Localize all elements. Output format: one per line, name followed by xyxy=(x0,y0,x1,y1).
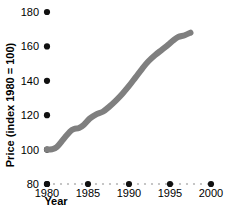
x-axis-grid-dot xyxy=(116,183,118,185)
x-axis-tick-label: 1985 xyxy=(76,187,100,199)
y-axis-tick-dot xyxy=(44,78,50,84)
x-axis-grid-dot xyxy=(74,183,76,185)
y-axis-tick-label: 160 xyxy=(21,40,39,52)
x-axis-grid-dot xyxy=(53,183,55,185)
x-axis-grid-dot xyxy=(165,183,167,185)
x-axis-tick-label: 1995 xyxy=(158,187,182,199)
y-axis-tick-dot xyxy=(44,9,50,15)
data-series-price-index xyxy=(47,33,191,150)
y-axis-tick-label: 180 xyxy=(21,6,39,18)
x-axis-grid-dot xyxy=(144,183,146,185)
y-axis-tick-marks xyxy=(44,9,50,187)
chart-canvas: 80100120140160180 19801985199019952000 P… xyxy=(0,0,242,210)
x-axis-grid-dot xyxy=(193,183,195,185)
y-axis-tick-labels: 80100120140160180 xyxy=(21,6,39,190)
x-axis-grid-dot xyxy=(137,183,139,185)
x-axis-grid-dot xyxy=(200,183,202,185)
y-axis-tick-label: 100 xyxy=(21,144,39,156)
x-axis-grid-dot xyxy=(158,183,160,185)
x-axis-grid-dot xyxy=(186,183,188,185)
x-axis-grid-dot xyxy=(81,183,83,185)
x-axis-grid-dot xyxy=(60,183,62,185)
x-axis-grid-dot xyxy=(109,183,111,185)
y-axis-title: Price (index 1980 = 100) xyxy=(4,42,16,167)
y-axis-tick-dot xyxy=(44,43,50,49)
x-axis-title: Year xyxy=(44,195,68,207)
x-axis-grid-dot xyxy=(151,183,153,185)
x-axis-grid-dot xyxy=(179,183,181,185)
y-axis-tick-label: 140 xyxy=(21,75,39,87)
price-index-line-chart: 80100120140160180 19801985199019952000 P… xyxy=(0,0,242,210)
x-axis-tick-label: 1990 xyxy=(117,187,141,199)
y-axis-tick-dot xyxy=(44,112,50,118)
x-axis-grid-dot xyxy=(67,183,69,185)
x-axis-grid-dot xyxy=(123,183,125,185)
x-axis-tick-label: 2000 xyxy=(199,187,223,199)
x-axis-grid-dot xyxy=(95,183,97,185)
x-axis-grid-dot xyxy=(102,183,104,185)
y-axis-tick-label: 120 xyxy=(21,109,39,121)
